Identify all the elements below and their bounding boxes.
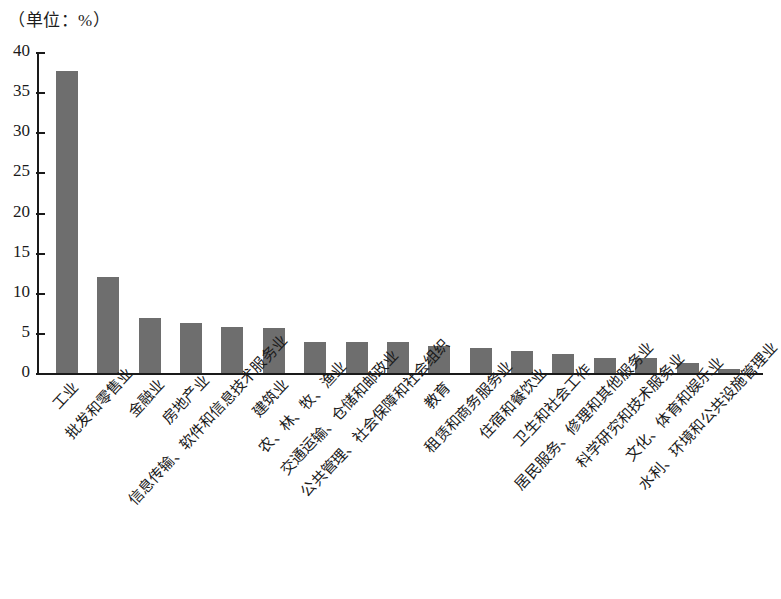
x-axis-label: 批发和零售业 — [63, 365, 137, 442]
x-axis-label-text: 工业 — [49, 380, 82, 414]
bar — [470, 348, 492, 373]
bar — [304, 342, 326, 373]
bar — [97, 277, 119, 373]
bar-chart: （单位：%） 0510152025303540 工业批发和零售业金融业房地产业信… — [0, 0, 781, 599]
bars-layer — [37, 52, 763, 374]
unit-caption: （单位：%） — [8, 6, 110, 31]
plot-area: 0510152025303540 — [37, 52, 763, 374]
x-axis-label: 工业 — [49, 380, 82, 414]
x-axis-label-text: 教育 — [421, 380, 454, 414]
bar — [139, 318, 161, 373]
y-tick-label: 0 — [22, 362, 31, 382]
x-axis-labels: 工业批发和零售业金融业房地产业信息传输、软件和信息技术服务业建筑业农、林、牧、渔… — [37, 374, 781, 599]
x-axis-label: 教育 — [421, 380, 454, 414]
y-tick-label: 35 — [13, 81, 30, 101]
y-tick-label: 10 — [13, 282, 30, 302]
bar — [221, 327, 243, 373]
y-tick-label: 30 — [13, 121, 30, 141]
bar — [594, 358, 616, 373]
y-tick-label: 40 — [13, 41, 30, 61]
y-tick-label: 25 — [13, 161, 30, 181]
bar — [552, 354, 574, 373]
bar — [56, 71, 78, 373]
y-tick-label: 20 — [13, 202, 30, 222]
x-axis-label-text: 批发和零售业 — [63, 365, 137, 442]
y-tick-label: 15 — [13, 242, 30, 262]
bar — [180, 323, 202, 373]
y-tick-label: 5 — [22, 322, 31, 342]
